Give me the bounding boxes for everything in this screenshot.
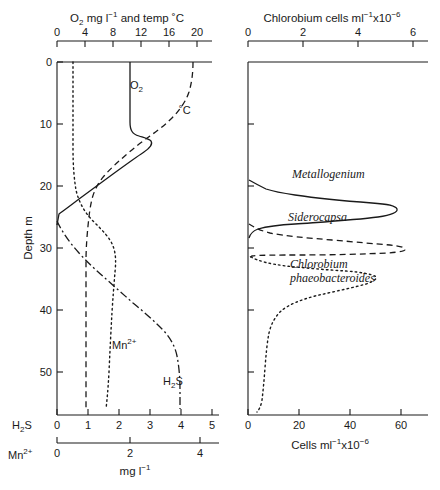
rp-bottom-axis-ticks: [248, 409, 401, 415]
h2s-axis-ticks: [57, 409, 212, 415]
plot-vector-layer: [0, 0, 440, 490]
curve-chlorobium: [251, 257, 376, 412]
curve-siderocapsa: [249, 224, 405, 258]
rp-depth-ticks: [248, 124, 254, 372]
curve-h2s: [57, 221, 180, 409]
figure-root: O2 mg l−1 and temp ˚C 0 4 8 12 16 20 Dep…: [0, 0, 440, 490]
curve-mn: [73, 62, 116, 409]
rp-top-axis-ticks: [248, 41, 413, 47]
curve-metallogenium: [249, 180, 397, 238]
lp-top-axis-ticks: [57, 41, 197, 47]
curve-o2: [57, 62, 152, 225]
mn-axis-ticks: [57, 437, 200, 443]
